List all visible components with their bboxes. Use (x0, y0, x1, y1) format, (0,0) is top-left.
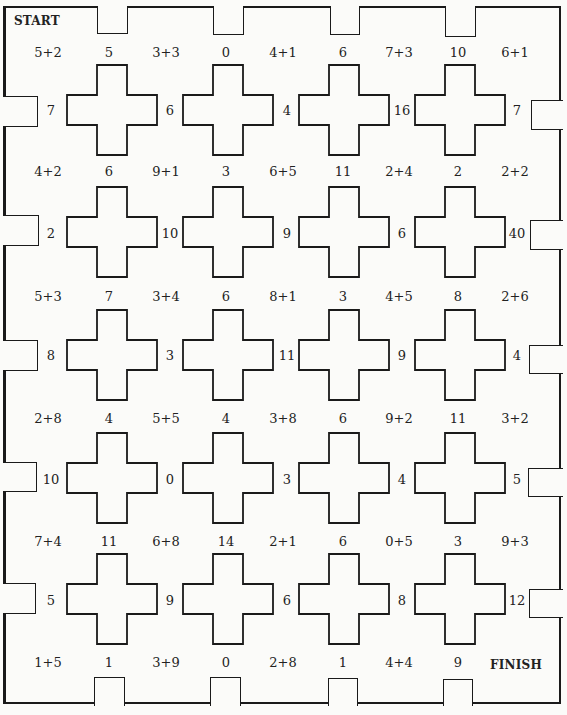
number-value: 10 (162, 226, 179, 241)
start-label: START (14, 14, 60, 28)
sum-expression: 4+1 (269, 45, 296, 60)
cross-space[interactable] (182, 186, 274, 278)
number-value: 6 (105, 164, 113, 179)
cross-space[interactable] (414, 309, 506, 401)
cross-space[interactable] (414, 186, 506, 278)
sum-expression: 1+5 (34, 655, 61, 670)
sum-expression: 2+8 (34, 411, 61, 426)
cross-space[interactable] (182, 309, 274, 401)
cross-space[interactable] (66, 432, 158, 524)
cross-space[interactable] (182, 64, 274, 156)
sum-expression: 2+4 (385, 164, 412, 179)
number-value: 0 (222, 655, 230, 670)
sum-expression: 6+5 (269, 164, 296, 179)
number-value: 8 (454, 289, 462, 304)
sum-expression: 3+2 (501, 411, 528, 426)
number-value: 12 (509, 593, 526, 608)
number-value: 4 (283, 103, 291, 118)
sum-expression: 5+5 (152, 411, 179, 426)
number-value: 6 (166, 103, 174, 118)
number-value: 9 (454, 655, 462, 670)
cross-space[interactable] (414, 64, 506, 156)
left-tab-2[interactable] (3, 215, 39, 246)
sum-expression: 5+3 (34, 289, 61, 304)
sum-expression: 9+1 (152, 164, 179, 179)
sum-expression: 3+3 (152, 45, 179, 60)
number-value: 1 (339, 655, 347, 670)
number-value: 0 (222, 45, 230, 60)
bottom-tab-3[interactable] (328, 678, 358, 706)
number-value: 4 (513, 348, 521, 363)
number-value: 7 (513, 103, 521, 118)
number-value: 9 (283, 226, 291, 241)
number-value: 6 (222, 289, 230, 304)
sum-expression: 3+9 (152, 655, 179, 670)
sum-expression: 2+6 (501, 289, 528, 304)
cross-space[interactable] (414, 432, 506, 524)
cross-space[interactable] (182, 553, 274, 645)
cross-space[interactable] (182, 432, 274, 524)
cross-space[interactable] (298, 432, 390, 524)
sum-expression: 4+4 (385, 655, 412, 670)
cross-space[interactable] (298, 309, 390, 401)
sum-expression: 5+2 (34, 45, 61, 60)
number-value: 4 (105, 411, 113, 426)
number-value: 16 (394, 103, 411, 118)
left-tab-5[interactable] (3, 583, 36, 614)
sum-expression: 3+4 (152, 289, 179, 304)
sum-expression: 3+8 (269, 411, 296, 426)
number-value: 14 (218, 534, 235, 549)
cross-space[interactable] (66, 186, 158, 278)
bottom-tab-2[interactable] (210, 677, 241, 706)
cross-space[interactable] (66, 309, 158, 401)
top-tab-1[interactable] (97, 6, 128, 34)
number-value: 3 (283, 472, 291, 487)
right-tab-4[interactable] (528, 468, 563, 497)
sum-expression: 2+1 (269, 534, 296, 549)
sum-expression: 8+1 (269, 289, 296, 304)
number-value: 9 (398, 348, 406, 363)
number-value: 3 (454, 534, 462, 549)
number-value: 10 (450, 45, 467, 60)
right-tab-2[interactable] (530, 220, 563, 250)
number-value: 2 (47, 226, 55, 241)
top-tab-4[interactable] (445, 6, 476, 37)
bottom-tab-1[interactable] (94, 677, 125, 706)
top-tab-2[interactable] (213, 6, 244, 35)
bottom-tab-4[interactable] (443, 679, 473, 706)
number-value: 11 (450, 411, 467, 426)
sum-expression: 2+2 (501, 164, 528, 179)
left-tab-3[interactable] (3, 340, 38, 371)
number-value: 11 (335, 164, 352, 179)
sum-expression: 9+3 (501, 534, 528, 549)
number-value: 6 (339, 411, 347, 426)
right-tab-5[interactable] (529, 589, 563, 618)
cross-space[interactable] (66, 553, 158, 645)
number-value: 8 (398, 593, 406, 608)
number-value: 6 (398, 226, 406, 241)
finish-label: FINISH (490, 658, 542, 672)
number-value: 6 (339, 45, 347, 60)
number-value: 40 (509, 226, 526, 241)
right-tab-3[interactable] (529, 345, 563, 374)
cross-space[interactable] (298, 553, 390, 645)
sum-expression: 6+1 (501, 45, 528, 60)
cross-space[interactable] (414, 553, 506, 645)
sum-expression: 0+5 (385, 534, 412, 549)
number-value: 2 (454, 164, 462, 179)
sum-expression: 6+8 (152, 534, 179, 549)
left-tab-4[interactable] (3, 462, 37, 492)
number-value: 0 (166, 472, 174, 487)
sum-expression: 7+3 (385, 45, 412, 60)
cross-space[interactable] (66, 64, 158, 156)
cross-space[interactable] (298, 186, 390, 278)
right-tab-1[interactable] (531, 100, 563, 130)
cross-space[interactable] (298, 64, 390, 156)
number-value: 3 (339, 289, 347, 304)
top-tab-3[interactable] (330, 6, 360, 35)
left-tab-1[interactable] (3, 96, 38, 127)
number-value: 5 (105, 45, 113, 60)
number-value: 7 (105, 289, 113, 304)
number-value: 4 (222, 411, 230, 426)
number-value: 9 (166, 593, 174, 608)
